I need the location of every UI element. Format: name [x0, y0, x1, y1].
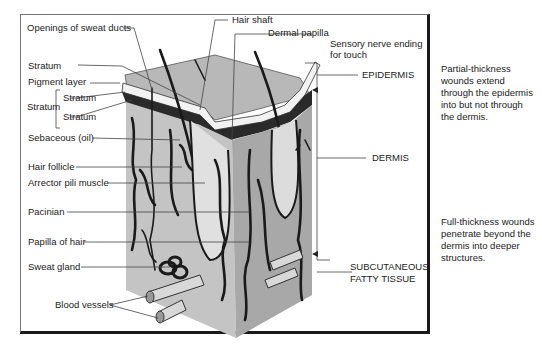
- label-sensory-nerve-2: for touch: [330, 49, 367, 60]
- label-stratum-top: Stratum: [28, 60, 61, 71]
- note-line: penetrate beyond the: [441, 228, 534, 240]
- label-sebaceous: Sebaceous (oil): [28, 132, 94, 143]
- label-stratum-group: Stratum: [27, 101, 60, 112]
- label-stratum-sub-1: Stratum: [63, 92, 96, 103]
- label-dermal-papilla: Dermal papilla: [268, 27, 329, 38]
- label-sensory-nerve-1: Sensory nerve ending: [330, 38, 422, 49]
- note-line: structures.: [441, 252, 534, 264]
- partial-thickness-note: Partial-thickness wounds extend through …: [441, 63, 533, 123]
- label-hair-follicle: Hair follicle: [28, 161, 74, 172]
- label-stratum-sub-2: Stratum: [63, 111, 96, 122]
- label-openings-of-sweat-ducts: Openings of sweat ducts: [27, 22, 131, 33]
- note-line: through the epidermis: [441, 87, 533, 99]
- skin-block: [122, 50, 320, 338]
- label-papilla-of-hair: Papilla of hair: [28, 236, 86, 247]
- hair-follicle-side: [271, 120, 298, 218]
- note-line: Full-thickness wounds: [441, 216, 534, 228]
- label-pacinian: Pacinian: [28, 206, 64, 217]
- label-hair-shaft: Hair shaft: [232, 14, 273, 25]
- note-line: into but not through: [441, 99, 533, 111]
- note-line: Partial-thickness: [441, 63, 533, 75]
- label-arrector-pili: Arrector pili muscle: [28, 177, 109, 188]
- note-line: the dermis.: [441, 111, 533, 123]
- full-thickness-note: Full-thickness wounds penetrate beyond t…: [441, 216, 534, 264]
- label-blood-vessels: Blood vessels: [55, 299, 114, 310]
- label-sweat-gland: Sweat gland: [28, 261, 80, 272]
- note-line: dermis into deeper: [441, 240, 534, 252]
- note-line: wounds extend: [441, 75, 533, 87]
- skin-cross-section-diagram: Openings of sweat ducts Hair shaft Derma…: [0, 0, 542, 352]
- label-subcutaneous-1: SUBCUTANEOUS: [350, 261, 428, 272]
- label-pigment-layer: Pigment layer: [28, 76, 86, 87]
- label-epidermis: EPIDERMIS: [362, 69, 414, 80]
- label-dermis: DERMIS: [372, 152, 409, 163]
- label-subcutaneous-2: FATTY TISSUE: [350, 273, 415, 284]
